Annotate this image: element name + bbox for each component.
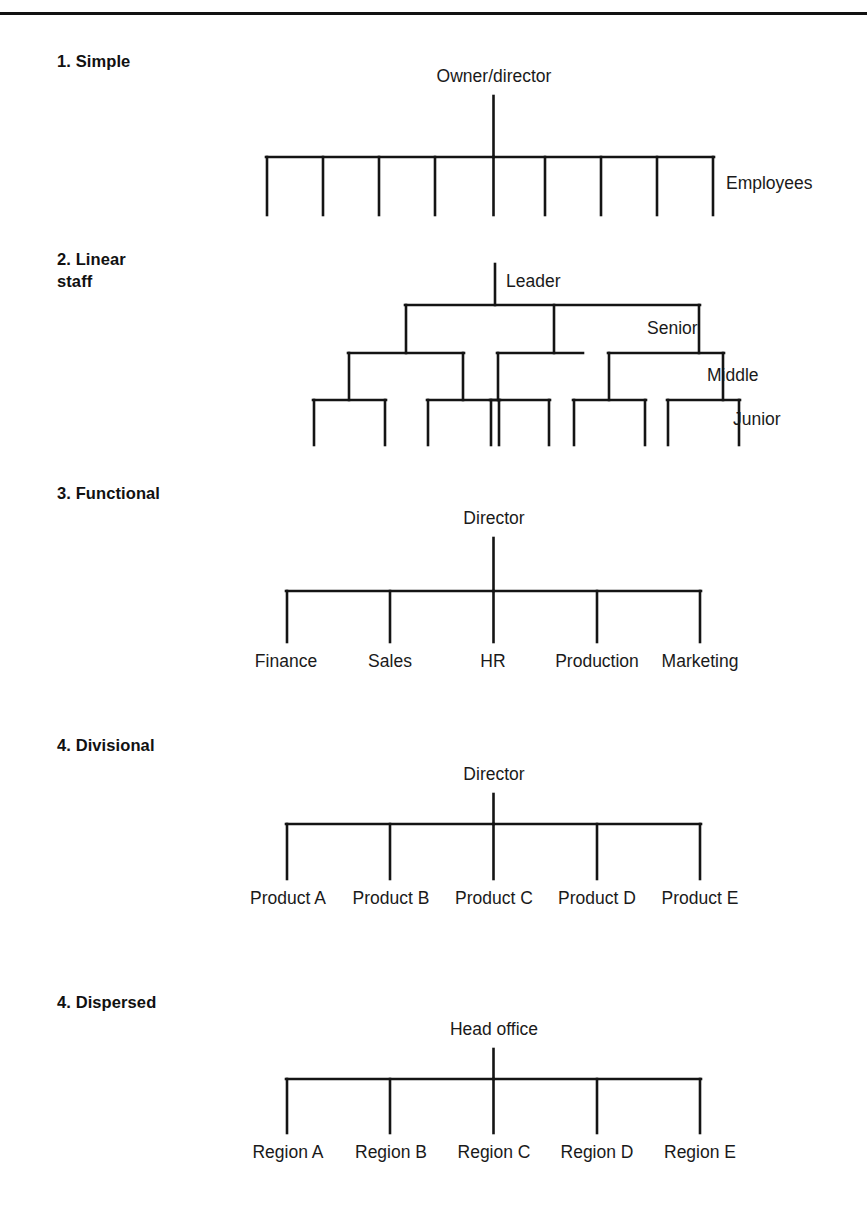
section-linear-staff: 2. Linear staff Leader Senior Middle Jun…	[0, 240, 867, 470]
diagram-page: 1. Simple Owner/director Employees 2. Li…	[0, 0, 867, 1228]
linear-staff-connectors	[0, 240, 867, 470]
section-functional: 3. Functional Director Finance Sales HR …	[0, 470, 867, 720]
section-dispersed: 4. Dispersed Head office Region A Region…	[0, 975, 867, 1228]
divisional-connectors	[0, 720, 867, 975]
simple-connectors	[0, 0, 867, 240]
section-simple: 1. Simple Owner/director Employees	[0, 0, 867, 240]
functional-connectors	[0, 470, 867, 720]
section-divisional: 4. Divisional Director Product A Product…	[0, 720, 867, 975]
dispersed-connectors	[0, 975, 867, 1228]
